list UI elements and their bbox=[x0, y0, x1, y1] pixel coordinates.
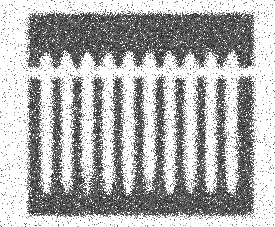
scan-figure: Degraded scanned comb grating pattern He… bbox=[0, 0, 275, 227]
grating-scan-canvas bbox=[0, 0, 275, 227]
